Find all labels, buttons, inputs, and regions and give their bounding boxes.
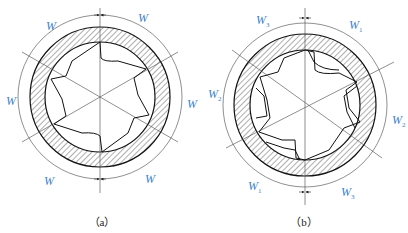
label-w2-left: W2 xyxy=(208,88,222,105)
label-w-top-left: W xyxy=(46,20,56,37)
label-w-top-right: W xyxy=(138,12,148,29)
figure-a-equal-spacing: W W W W W W （a） xyxy=(0,0,204,233)
endmill-cross-section-b xyxy=(204,0,408,233)
label-w2-right: W2 xyxy=(392,114,406,131)
figure-b-unequal-spacing: W3 W1 W2 W2 W1 W3 （b） xyxy=(204,0,408,233)
label-w-left: W xyxy=(6,95,16,112)
caption-a: （a） xyxy=(82,213,122,229)
label-w1-bottom-left: W1 xyxy=(248,180,262,197)
caption-b: （b） xyxy=(284,213,324,229)
label-w-bottom-left: W xyxy=(44,175,54,192)
label-w1-top-right: W1 xyxy=(349,19,363,36)
label-w-bottom-right: W xyxy=(145,173,155,190)
endmill-cross-section-a xyxy=(0,0,204,233)
label-w3-top-left: W3 xyxy=(256,14,270,31)
label-w-right: W xyxy=(187,98,197,115)
label-w3-bottom-right: W3 xyxy=(341,186,355,203)
